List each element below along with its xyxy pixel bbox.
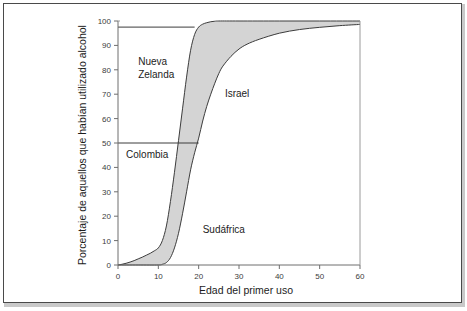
annotation-line: Sudáfrica	[203, 224, 246, 235]
x-tick-label: 40	[275, 272, 284, 281]
x-tick-label: 50	[315, 272, 324, 281]
annotation-israel: Israel	[225, 88, 249, 99]
annotation-colombia: Colombia	[126, 149, 169, 160]
y-tick-label: 90	[102, 41, 111, 50]
annotation-line: Nueva	[138, 56, 167, 67]
y-tick-label: 80	[102, 66, 111, 75]
y-tick-label: 50	[102, 139, 111, 148]
x-tick-label: 10	[154, 272, 163, 281]
figure-container: 0102030405060708090100 0102030405060 Nue…	[0, 0, 467, 311]
y-axis-title: Porcentaje de aquellos que habían utiliz…	[76, 25, 88, 265]
x-axis-title: Edad del primer uso	[199, 284, 293, 296]
alcohol-first-use-chart: 0102030405060708090100 0102030405060 Nue…	[0, 0, 467, 311]
y-tick-label: 10	[102, 237, 111, 246]
x-tick-label: 60	[356, 272, 365, 281]
y-tick-label: 30	[102, 188, 111, 197]
x-tick-label: 30	[235, 272, 244, 281]
y-tick-label: 0	[107, 261, 112, 270]
annotation-sudafrica: Sudáfrica	[203, 224, 246, 235]
annotation-line: Colombia	[126, 149, 169, 160]
annotation-line: Israel	[225, 88, 249, 99]
x-tick-label: 0	[116, 272, 121, 281]
y-tick-label: 70	[102, 90, 111, 99]
y-tick-label: 40	[102, 163, 111, 172]
annotation-nueva-zelanda: NuevaZelanda	[138, 56, 175, 80]
x-axis-ticks: 0102030405060	[116, 265, 365, 281]
annotation-line: Zelanda	[138, 69, 175, 80]
y-tick-label: 100	[98, 17, 112, 26]
y-axis-ticks: 0102030405060708090100	[98, 17, 118, 270]
x-tick-label: 20	[194, 272, 203, 281]
y-tick-label: 60	[102, 115, 111, 124]
y-tick-label: 20	[102, 212, 111, 221]
